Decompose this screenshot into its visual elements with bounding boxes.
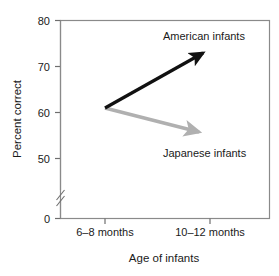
y-tick-label-0: 0 <box>44 213 50 225</box>
series-label-american: American infants <box>163 30 245 42</box>
series-line-japanese <box>105 108 199 132</box>
x-tick-label-1: 6–8 months <box>76 226 134 238</box>
line-chart: 80 70 60 50 0 6–8 months 10–12 months Ag… <box>0 0 279 276</box>
series-label-japanese: Japanese infants <box>163 147 247 159</box>
x-axis-title: Age of infants <box>129 252 200 264</box>
y-axis-title: Percent correct <box>11 79 23 158</box>
series-line-american <box>105 53 203 108</box>
y-tick-label-70: 70 <box>38 61 50 73</box>
y-tick-label-60: 60 <box>38 107 50 119</box>
y-tick-label-80: 80 <box>38 15 50 27</box>
chart-figure: 80 70 60 50 0 6–8 months 10–12 months Ag… <box>0 0 279 276</box>
x-tick-label-2: 10–12 months <box>175 226 245 238</box>
y-tick-label-50: 50 <box>38 153 50 165</box>
plot-frame <box>61 21 270 219</box>
